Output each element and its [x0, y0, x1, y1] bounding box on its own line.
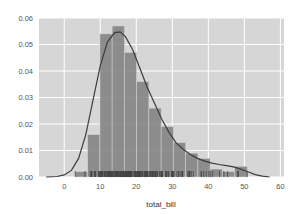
x-axis-tick-labels: 0102030405060: [62, 182, 284, 191]
histogram-bar: [210, 169, 222, 177]
histogram-bar: [149, 108, 161, 177]
x-tick-label: 30: [168, 182, 176, 191]
histogram-bar: [100, 34, 112, 177]
histogram-bar: [88, 135, 100, 177]
histogram-bar: [112, 26, 124, 177]
histogram-bar: [124, 52, 136, 177]
y-axis-tick-labels: 0.000.010.020.030.040.050.06: [18, 14, 33, 182]
y-tick-label: 0.01: [18, 146, 33, 155]
distribution-chart: 0.000.010.020.030.040.050.06 01020304050…: [0, 0, 300, 214]
x-tick-label: 20: [132, 182, 140, 191]
y-tick-label: 0.02: [18, 120, 33, 129]
histogram-bar: [173, 143, 185, 177]
y-tick-label: 0.05: [18, 40, 33, 49]
x-tick-label: 10: [96, 182, 104, 191]
histogram-bar: [75, 172, 87, 177]
x-tick-label: 40: [204, 182, 212, 191]
y-tick-label: 0.04: [18, 67, 33, 76]
y-tick-label: 0.00: [18, 173, 33, 182]
x-tick-label: 0: [62, 182, 66, 191]
y-tick-label: 0.03: [18, 93, 33, 102]
histogram-bar: [137, 82, 149, 177]
histogram-bar: [161, 127, 173, 177]
x-tick-label: 50: [240, 182, 248, 191]
x-tick-label: 60: [276, 182, 284, 191]
x-axis-label: total_bill: [146, 200, 176, 209]
y-tick-label: 0.06: [18, 14, 33, 23]
